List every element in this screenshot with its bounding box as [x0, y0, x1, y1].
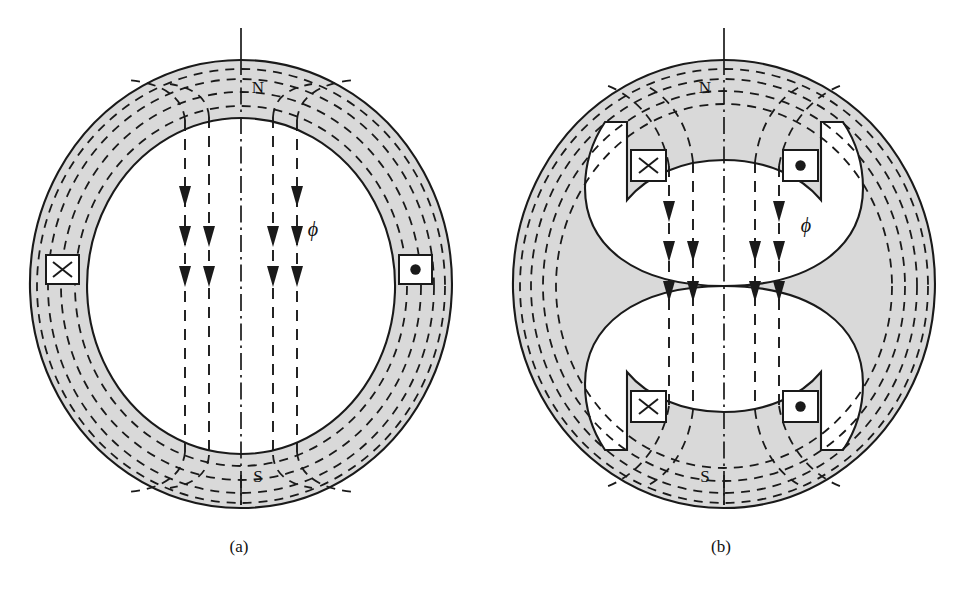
diagram-panel-a: N S ϕ — [0, 0, 483, 530]
caption-a: (a) — [179, 537, 299, 557]
flux-lines-bore-a — [185, 117, 297, 455]
caption-b: (b) — [661, 537, 781, 557]
north-pole-label-a: N — [252, 78, 264, 97]
coil-cross-upper-left-b[interactable] — [631, 150, 666, 181]
coil-cross-left-a[interactable] — [46, 255, 79, 284]
coil-dot-upper-right-b[interactable] — [783, 150, 818, 181]
south-pole-label-b: S — [700, 467, 709, 486]
dot-icon — [410, 264, 420, 274]
coil-dot-right-a[interactable] — [399, 255, 432, 284]
coil-cross-lower-left-b[interactable] — [631, 391, 666, 422]
south-pole-label-a: S — [253, 467, 262, 486]
dot-icon — [795, 401, 805, 411]
coil-dot-lower-right-b[interactable] — [783, 391, 818, 422]
diagram-panel-b: N S ϕ — [483, 0, 966, 530]
figure-root: N S ϕ — [0, 0, 966, 589]
flux-symbol-label-a: ϕ — [308, 218, 318, 241]
north-pole-label-b: N — [699, 78, 711, 97]
flux-symbol-label-b: ϕ — [801, 214, 811, 237]
dot-icon — [795, 160, 805, 170]
